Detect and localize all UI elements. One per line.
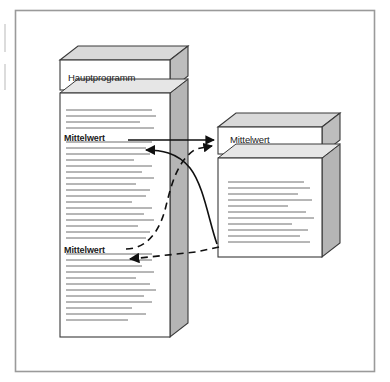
- diagram-svg: [0, 0, 390, 382]
- subroutine-title: Mittelwert: [230, 134, 270, 145]
- sub-box-body-side-face: [322, 144, 340, 257]
- call-site-label-1: Mittelwert: [64, 133, 105, 143]
- main-program-title: Hauptprogramm: [68, 72, 135, 83]
- sub-box-body-top-sliver: [218, 144, 340, 158]
- main-box-body-face: [60, 93, 170, 337]
- page-edge-marks: [4, 24, 6, 90]
- call-site-label-2: Mittelwert: [64, 245, 105, 255]
- sub-box-top-face: [218, 113, 340, 127]
- main-box-top-face: [60, 46, 188, 60]
- main-box-body-side-face: [170, 79, 188, 337]
- figure-canvas: Hauptprogramm Mittelwert Mittelwert Mitt…: [0, 0, 390, 382]
- main-program-box: [60, 46, 188, 337]
